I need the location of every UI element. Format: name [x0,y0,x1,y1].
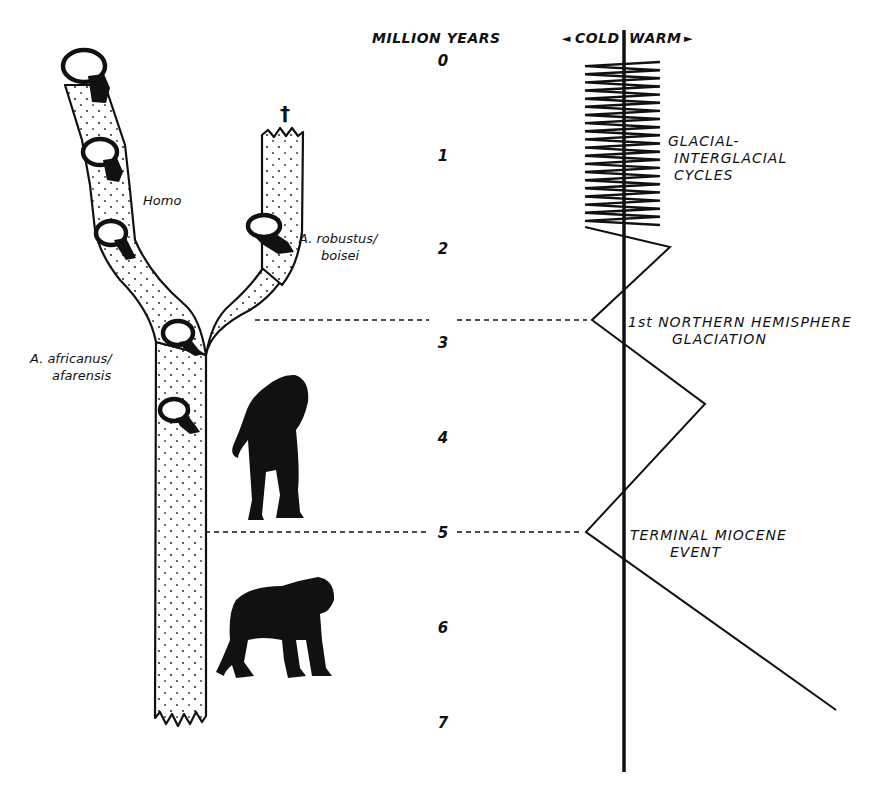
timescale-tick: 1 [438,147,448,165]
event-label-glacial-cycles-line: GLACIAL- [668,133,739,149]
timescale-tick: 7 [438,714,449,732]
event-label-terminal-miocene-line: EVENT [670,544,722,560]
cold-arrow-icon: ◄ [562,32,571,45]
timescale-ticks: 01234567 [437,52,449,732]
event-label-northern-glaciation: 1st NORTHERN HEMISPHEREGLACIATION [628,314,852,347]
event-label-glacial-cycles-line: INTERGLACIAL [674,150,787,166]
event-label-terminal-miocene: TERMINAL MIOCENEEVENT [630,527,787,560]
climate-event-labels: GLACIAL-INTERGLACIALCYCLES1st NORTHERN H… [628,133,852,560]
hominid-climate-diagram: HomoA. robustus/boiseiA. africanus/afare… [0,0,894,795]
timescale-tick: 6 [438,619,448,637]
event-label-glacial-cycles-line: CYCLES [674,167,733,183]
taxon-label-homo: Homo [143,193,181,208]
taxon-label-robustus: A. robustus/boisei [298,231,379,263]
taxon-label-africanus-line: A. africanus/ [29,351,113,366]
timescale-tick: 2 [438,240,448,258]
homo-branch [65,85,206,355]
timescale-header: MILLION YEARS [372,30,501,46]
timescale-tick: 3 [438,334,448,352]
extinction-dagger-icon: † [280,101,290,125]
taxon-label-africanus: A. africanus/afarensis [29,351,113,383]
timescale-tick: 4 [437,429,448,447]
robustus-branch [262,128,303,285]
taxon-label-africanus-line: afarensis [52,368,111,383]
taxon-label-robustus-line: boisei [321,248,360,263]
event-label-northern-glaciation-line: GLACIATION [672,331,767,347]
event-label-terminal-miocene-line: TERMINAL MIOCENE [630,527,787,543]
timescale-tick: 0 [438,52,448,70]
cold-label: COLD [575,30,620,46]
warm-arrow-icon: ► [684,32,693,45]
taxon-label-robustus-line: A. robustus/ [298,231,379,246]
hominid-silhouette-icon [232,375,308,520]
event-label-northern-glaciation-line: 1st NORTHERN HEMISPHERE [628,314,852,330]
warm-label: WARM [629,30,682,46]
event-label-glacial-cycles: GLACIAL-INTERGLACIALCYCLES [668,133,787,183]
timescale-tick: 5 [438,524,448,542]
ape-silhouette-icon [216,577,334,678]
